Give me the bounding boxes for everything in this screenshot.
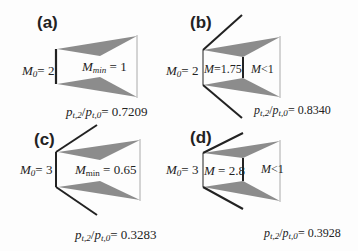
- mmin-subscript: min: [93, 65, 107, 75]
- inner-m-value: =1.75: [214, 62, 242, 76]
- panel-a-upper-wedge: [57, 36, 137, 56]
- m0-value: = 2: [37, 63, 54, 78]
- panel-a-label: (a): [37, 13, 58, 33]
- m0-symbol: M: [166, 63, 177, 78]
- panel-b-pressure-ratio: pt,2/pt,0= 0.8340: [254, 103, 331, 118]
- nozzle-diagram-figure: (a) M0= 2 Mmin = 1 pt,2/pt,0= 0.7209 (b)…: [0, 0, 358, 251]
- panel-a-pressure-ratio: pt,2/pt,0= 0.7209: [66, 104, 148, 120]
- panel-d-pressure-ratio: pt,2/pt,0= 0.3928: [264, 226, 341, 241]
- m0-value: = 3: [181, 162, 198, 177]
- panel-d-inner-mach: M = 2.8: [204, 163, 245, 179]
- mmin-value: = 1: [110, 59, 127, 74]
- panel-b-m0-label: M0= 2: [166, 63, 198, 79]
- ratio-num-subscript: t,2: [270, 231, 279, 241]
- ratio-value: = 0.7209: [101, 104, 147, 119]
- m0-value: = 3: [35, 162, 52, 177]
- ratio-value: = 0.3283: [110, 227, 156, 242]
- inner-m-value: = 2.8: [218, 163, 245, 178]
- ratio-den-subscript: t,0: [101, 233, 110, 243]
- outer-m-symbol: M: [261, 162, 271, 176]
- mmin-symbol: M: [82, 59, 93, 74]
- inner-m-symbol: M: [204, 62, 214, 76]
- panel-c-mmin-label: Mmin = 0.65: [75, 162, 136, 178]
- panel-d-label: (d): [190, 128, 212, 148]
- ratio-num-subscript: t,2: [82, 233, 91, 243]
- mmin-symbol: M: [75, 162, 86, 177]
- panel-a-lower-wedge: [57, 77, 137, 97]
- inner-m-symbol: M: [204, 163, 215, 178]
- panel-d-upper-wedge: [203, 141, 280, 158]
- diagram-shapes: [0, 0, 358, 251]
- panel-a-mmin-label: Mmin = 1: [82, 59, 127, 75]
- panel-d-m0-label: M0= 3: [166, 162, 198, 178]
- ratio-den-subscript: t,0: [92, 110, 101, 120]
- mmin-subscript: min: [86, 168, 100, 178]
- panel-d-outer-mach: M<1: [261, 162, 284, 177]
- m0-symbol: M: [22, 63, 33, 78]
- ratio-num-subscript: t,2: [73, 110, 82, 120]
- panel-b-outer-mach: M<1: [251, 62, 274, 77]
- panel-d-lower-wedge: [203, 181, 280, 201]
- mmin-value: = 0.65: [103, 162, 136, 177]
- outer-m-symbol: M: [251, 62, 261, 76]
- outer-m-value: <1: [271, 162, 284, 176]
- ratio-value: = 0.3928: [298, 226, 341, 240]
- panel-c-pressure-ratio: pt,2/pt,0= 0.3283: [75, 227, 157, 243]
- m0-value: = 2: [181, 63, 198, 78]
- panel-c-label: (c): [34, 130, 55, 150]
- panel-a-m0-label: M0= 2: [22, 63, 54, 79]
- ratio-den-subscript: t,0: [289, 231, 298, 241]
- outer-m-value: <1: [261, 62, 274, 76]
- panel-b-inner-mach: M=1.75: [204, 62, 242, 77]
- panel-c-m0-label: M0= 3: [20, 162, 52, 178]
- m0-symbol: M: [166, 162, 177, 177]
- ratio-value: = 0.8340: [288, 103, 331, 117]
- ratio-den-subscript: t,0: [279, 108, 288, 118]
- m0-symbol: M: [20, 162, 31, 177]
- panel-b-label: (b): [190, 13, 212, 33]
- ratio-num-subscript: t,2: [260, 108, 269, 118]
